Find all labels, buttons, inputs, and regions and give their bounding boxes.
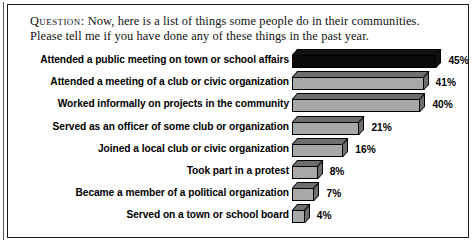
chart-row: Worked informally on projects in the com… xyxy=(8,93,470,115)
bar-side-face xyxy=(420,94,425,113)
bar-front-face xyxy=(292,166,318,179)
chart-row: Attended a public meeting on town or sch… xyxy=(8,49,470,71)
bar xyxy=(292,160,324,182)
bar-value-label: 4% xyxy=(317,204,332,226)
bar-value-label: 40% xyxy=(432,93,452,115)
bar-category-label: Attended a public meeting on town or sch… xyxy=(8,49,289,71)
bar-value-label: 21% xyxy=(371,116,391,138)
bar-front-face xyxy=(292,188,314,201)
bar-value-label: 45% xyxy=(448,49,468,71)
bar-category-label: Joined a local club or civic organizatio… xyxy=(8,138,289,160)
chart-row: Attended a meeting of a club or civic or… xyxy=(8,71,470,93)
chart-frame: Question: Now, here is a list of things … xyxy=(7,4,469,238)
bar-front-face xyxy=(292,99,420,112)
bar-category-label: Served on a town or school board xyxy=(8,204,289,226)
bar-front-face xyxy=(292,77,424,90)
bar-category-label: Served as an officer of some club or org… xyxy=(8,116,289,138)
bar xyxy=(292,93,426,115)
bar-category-label: Attended a meeting of a club or civic or… xyxy=(8,71,289,93)
bar xyxy=(292,182,320,204)
bar-value-label: 8% xyxy=(330,160,345,182)
bar-front-face xyxy=(292,55,436,68)
bar xyxy=(292,71,430,93)
bar-value-label: 7% xyxy=(326,182,341,204)
bar-side-face xyxy=(314,183,319,202)
bar xyxy=(292,116,365,138)
bar-category-label: Became a member of a political organizat… xyxy=(8,182,289,204)
question-body: Now, here is a list of things some peopl… xyxy=(30,14,420,43)
bar-side-face xyxy=(343,138,348,157)
bar-side-face xyxy=(305,205,310,224)
chart-row: Served as an officer of some club or org… xyxy=(8,116,470,138)
bar-side-face xyxy=(359,116,364,135)
question-text-block: Question: Now, here is a list of things … xyxy=(30,14,450,43)
chart-figure: Question: Now, here is a list of things … xyxy=(0,0,476,243)
chart-row: Joined a local club or civic organizatio… xyxy=(8,138,470,160)
bar xyxy=(292,204,311,226)
bar-category-label: Worked informally on projects in the com… xyxy=(8,93,289,115)
bar xyxy=(292,49,442,71)
bar-chart: Attended a public meeting on town or sch… xyxy=(8,45,470,235)
bar-front-face xyxy=(292,210,305,223)
chart-row: Became a member of a political organizat… xyxy=(8,182,470,204)
bar-category-label: Took part in a protest xyxy=(8,160,289,182)
chart-row: Served on a town or school board4% xyxy=(8,204,470,226)
bar xyxy=(292,138,349,160)
question-label: Question: xyxy=(30,14,85,28)
chart-row: Took part in a protest8% xyxy=(8,160,470,182)
bar-front-face xyxy=(292,144,343,157)
bar-front-face xyxy=(292,122,359,135)
bar-value-label: 41% xyxy=(436,71,456,93)
bar-side-face xyxy=(436,49,441,68)
bar-value-label: 16% xyxy=(355,138,375,160)
